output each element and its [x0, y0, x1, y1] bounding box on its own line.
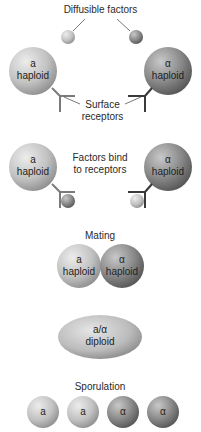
alpha-factor-molecule — [129, 30, 143, 44]
alpha-surface-receptor — [128, 88, 152, 112]
a-haploid-top-line2: haploid — [9, 70, 57, 82]
alpha-haploid-top-line1: α — [144, 58, 192, 70]
sporulation-label: Sporulation — [65, 381, 135, 393]
a-receptor-bound — [52, 184, 75, 208]
diploid-line2: diploid — [70, 336, 130, 348]
a-factor-molecule — [61, 30, 75, 44]
a-haploid-mating-line1: a — [57, 254, 101, 266]
surface-receptors-label-1: Surface — [75, 99, 130, 111]
spore-label-2: a — [71, 406, 95, 418]
alpha-haploid-bind-line1: α — [144, 154, 192, 166]
surface-receptors-label-2: receptors — [75, 111, 130, 123]
alpha-receptor-bound — [128, 184, 152, 208]
a-haploid-bind-line2: haploid — [9, 166, 57, 178]
spore-label-4: α — [151, 406, 175, 418]
alpha-factor-bound — [61, 194, 75, 208]
alpha-haploid-bind-line2: haploid — [144, 166, 192, 178]
alpha-haploid-mating-line1: α — [100, 254, 144, 266]
spore-label-1: a — [31, 406, 55, 418]
pointer-lines-factors — [73, 19, 130, 31]
diploid-line1: a/α — [70, 324, 130, 336]
factors-bind-label-1: Factors bind — [65, 152, 135, 164]
diffusible-factors-label: Diffusible factors — [50, 4, 151, 16]
a-haploid-bind-line1: a — [9, 154, 57, 166]
spore-label-3: α — [111, 406, 135, 418]
alpha-haploid-mating-line2: haploid — [100, 266, 144, 278]
factors-bind-label-2: to receptors — [65, 164, 135, 176]
a-haploid-top-line1: a — [9, 58, 57, 70]
a-factor-bound — [130, 194, 144, 208]
alpha-haploid-top-line2: haploid — [144, 70, 192, 82]
mating-label: Mating — [70, 230, 130, 242]
a-haploid-mating-line2: haploid — [57, 266, 101, 278]
